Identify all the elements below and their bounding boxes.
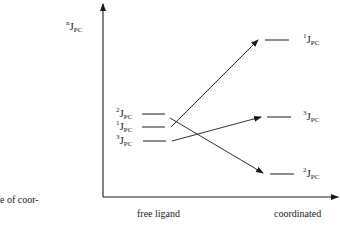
- y-axis-label-sub: PC: [74, 26, 83, 34]
- label-sub: PC: [124, 140, 133, 148]
- y-axis-label: nJPC: [66, 20, 82, 34]
- x-axis-label-free-ligand: free ligand: [137, 208, 180, 219]
- label-sub: PC: [311, 173, 320, 181]
- label-coord-level-1: 1JPC: [303, 33, 319, 47]
- label-coord-level-2: 3JPC: [303, 110, 319, 124]
- energy-level-diagram: [0, 0, 340, 230]
- label-sub: PC: [124, 126, 133, 134]
- label-free-level-3: 3JPC: [116, 134, 132, 148]
- arrow-3jpc: [172, 117, 261, 141]
- arrow-2jpc: [170, 118, 263, 173]
- label-coord-level-3: 2JPC: [303, 167, 319, 181]
- arrow-1jpc: [171, 40, 258, 127]
- label-sub: PC: [311, 116, 320, 124]
- label-free-level-2: 1JPC: [116, 120, 132, 134]
- label-sub: PC: [311, 39, 320, 47]
- caption-fragment: e of coor-: [0, 194, 39, 205]
- x-axis-label-coordinated: coordinated: [274, 208, 321, 219]
